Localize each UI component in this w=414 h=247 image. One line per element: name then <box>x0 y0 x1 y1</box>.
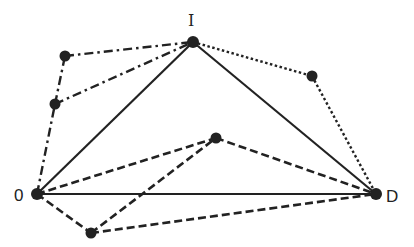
edge-i-p3-dotted <box>193 42 312 76</box>
node-label-intermediate: I <box>188 11 194 30</box>
edge-i-d-solid <box>193 42 376 194</box>
node-d <box>370 188 382 200</box>
node-p2 <box>50 99 61 110</box>
edge-o-p4-dashed <box>37 138 216 194</box>
network-diagram: 0 I D <box>0 0 414 247</box>
edge-p2-i-dash-dot <box>55 42 193 104</box>
edge-o-i-solid <box>37 42 193 194</box>
node-p4 <box>211 133 222 144</box>
nodes-group <box>31 36 382 239</box>
node-p3 <box>307 71 318 82</box>
labels-group: 0 I D <box>14 11 398 206</box>
edge-p2-p1-dash-dot <box>55 56 65 104</box>
edges-group <box>37 42 376 233</box>
node-p5 <box>86 228 97 239</box>
node-label-destination: D <box>386 187 398 206</box>
node-i <box>187 36 199 48</box>
diagram-svg: 0 I D <box>0 0 414 247</box>
edge-p5-p4-dashed <box>91 138 216 233</box>
edge-o-p5-dashed <box>37 194 91 233</box>
edge-p4-d-dashed <box>216 138 376 194</box>
node-o <box>31 188 43 200</box>
node-label-origin: 0 <box>14 186 23 205</box>
edge-p1-i-dash-dot <box>65 42 193 56</box>
node-p1 <box>60 51 71 62</box>
